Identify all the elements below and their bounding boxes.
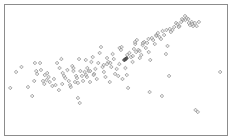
scatter-chart <box>0 0 231 139</box>
